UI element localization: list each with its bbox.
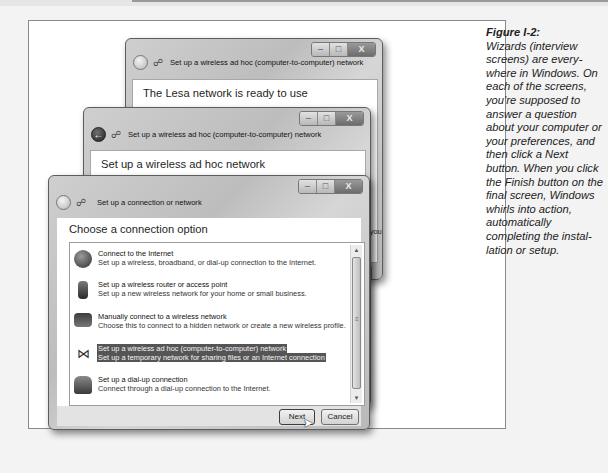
- window-title: Set up a connection or network: [97, 198, 202, 207]
- option-description: Connect through a dial-up connection to …: [98, 384, 271, 393]
- list-item-selected[interactable]: ⋈ Set up a wireless ad hoc (computer-to-…: [70, 342, 346, 368]
- divider: [132, 0, 608, 2]
- list-item[interactable]: Manually connect to a wireless network C…: [70, 310, 346, 336]
- option-title: Manually connect to a wireless network: [98, 312, 227, 321]
- network-icon: ☍: [76, 197, 86, 208]
- close-button[interactable]: X: [335, 180, 362, 193]
- scroll-down-arrow-icon[interactable]: ▼: [351, 393, 362, 403]
- scroll-up-arrow-icon[interactable]: ▲: [351, 245, 362, 255]
- window-controls: – □ X: [299, 111, 364, 126]
- close-button[interactable]: X: [348, 43, 375, 56]
- maximize-button[interactable]: □: [330, 43, 348, 56]
- cancel-button[interactable]: Cancel: [321, 409, 359, 425]
- minimize-button[interactable]: –: [312, 43, 330, 56]
- grip-icon: ≡: [355, 316, 359, 322]
- page-heading: The Lesa network is ready to use: [143, 87, 308, 99]
- wizard-footer: [57, 406, 361, 426]
- network-icon: ☍: [153, 57, 163, 68]
- window-title: Set up a wireless ad hoc (computer-to-co…: [170, 58, 363, 67]
- page-heading: Choose a connection option: [69, 223, 208, 235]
- maximize-button[interactable]: □: [317, 180, 335, 193]
- window-controls: – □ X: [311, 42, 376, 57]
- close-button[interactable]: X: [336, 112, 363, 125]
- option-description: Set up a temporary network for sharing f…: [97, 353, 326, 362]
- option-description: Set up a new wireless network for your h…: [98, 289, 307, 298]
- adhoc-network-icon: ⋈: [74, 345, 92, 363]
- phone-icon: [74, 376, 92, 394]
- scrollbar-thumb[interactable]: ≡: [352, 257, 361, 389]
- vertical-scrollbar[interactable]: ▲ ≡ ▼: [350, 245, 362, 403]
- computer-icon: [74, 313, 92, 327]
- minimize-button[interactable]: –: [300, 112, 318, 125]
- back-arrow-button[interactable]: [56, 195, 71, 210]
- list-item[interactable]: Connect to the Internet Set up a wireles…: [70, 247, 346, 273]
- figure-label: Figure I-2:: [486, 26, 604, 40]
- network-icon: ☍: [111, 129, 121, 140]
- window-title: Set up a wireless ad hoc (computer-to-co…: [128, 130, 321, 139]
- back-arrow-button[interactable]: [133, 55, 148, 70]
- caption-text: Wizards (interview screens) are every-wh…: [486, 40, 603, 256]
- globe-icon: [74, 250, 92, 268]
- front-window: – □ X ☍ Set up a connection or network C…: [48, 175, 370, 430]
- option-title: Set up a dial-up connection: [98, 375, 188, 384]
- connection-options-list: Connect to the Internet Set up a wireles…: [69, 242, 365, 406]
- window-controls: – □ X: [298, 179, 363, 194]
- option-title: Set up a wireless ad hoc (computer-to-co…: [97, 344, 287, 353]
- back-arrow-button[interactable]: ←: [91, 127, 106, 142]
- list-item[interactable]: Set up a dial-up connection Connect thro…: [70, 373, 346, 399]
- minimize-button[interactable]: –: [299, 180, 317, 193]
- list-item[interactable]: Set up a wireless router or access point…: [70, 278, 346, 304]
- option-description: Set up a wireless, broadband, or dial-up…: [98, 258, 316, 267]
- page-heading: Set up a wireless ad hoc network: [101, 158, 265, 170]
- option-title: Set up a wireless router or access point: [98, 280, 227, 289]
- option-description: Choose this to connect to a hidden netwo…: [98, 321, 346, 330]
- figure-caption: Figure I-2: Wizards (interview screens) …: [486, 26, 604, 257]
- page-top-strip: [0, 0, 608, 6]
- maximize-button[interactable]: □: [318, 112, 336, 125]
- option-title: Connect to the Internet: [98, 249, 173, 258]
- mouse-cursor-icon: ➤: [303, 416, 313, 430]
- router-icon: [78, 281, 88, 299]
